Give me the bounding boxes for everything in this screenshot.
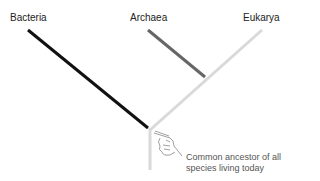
common-ancestor-caption: Common ancestor of all species living to… [186,152,281,174]
branch-archaea [148,30,205,77]
caption-line-1: Common ancestor of all [186,152,281,163]
pointing-hand-icon [154,131,182,156]
branch-bacteria [28,30,148,128]
caption-line-2: species living today [186,163,281,174]
